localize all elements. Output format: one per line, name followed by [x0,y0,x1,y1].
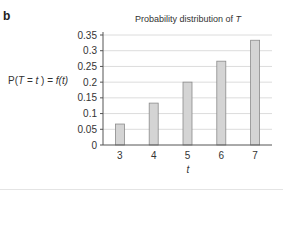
x-tick-label: 3 [117,150,123,161]
y-tick-label: 0.2 [83,77,97,88]
y-tick-label: 0.3 [83,45,97,56]
x-tick-label: 7 [252,150,258,161]
x-tick-label: 6 [219,150,225,161]
bar-4 [149,103,158,145]
bar-5 [183,82,192,145]
divider [0,189,283,190]
y-tick-label: 0.35 [78,30,98,41]
bar-7 [251,40,260,145]
bar-3 [115,124,124,145]
y-tick-label: 0.05 [78,124,98,135]
bar-6 [217,61,226,145]
y-tick-label: 0 [91,140,97,151]
x-tick-label: 4 [151,150,157,161]
y-tick-label: 0.25 [78,61,98,72]
y-tick-label: 0.1 [83,108,97,119]
x-tick-label: 5 [185,150,191,161]
y-tick-label: 0.15 [78,92,98,103]
x-axis-label: t [103,164,273,175]
